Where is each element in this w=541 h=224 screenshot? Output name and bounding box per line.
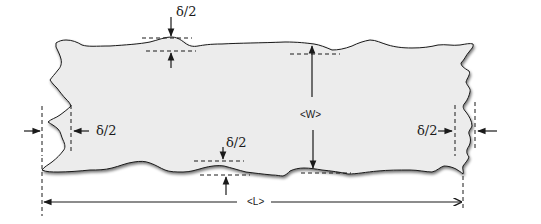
bottom-delta-label: δ/2 (226, 136, 246, 149)
strip-shape (42, 37, 473, 176)
right-delta-label: δ/2 (417, 124, 437, 137)
length-label: <L> (245, 197, 266, 207)
left-delta-label: δ/2 (96, 124, 116, 137)
top-delta-label: δ/2 (176, 5, 196, 18)
width-label: <W> (298, 110, 323, 120)
strip-tolerance-diagram (0, 0, 541, 224)
